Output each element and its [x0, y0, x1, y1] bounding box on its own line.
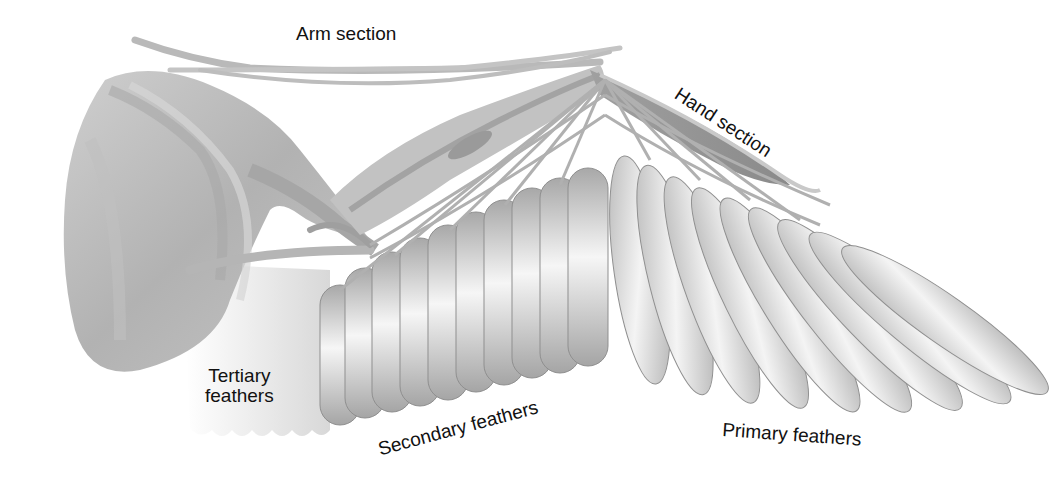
label-arm-section: Arm section: [296, 24, 396, 44]
label-tertiary-feathers: Tertiary feathers: [205, 366, 274, 406]
label-tertiary-line1: Tertiary: [205, 366, 274, 386]
primary-feathers: [598, 153, 1060, 427]
label-tertiary-line2: feathers: [205, 386, 274, 406]
